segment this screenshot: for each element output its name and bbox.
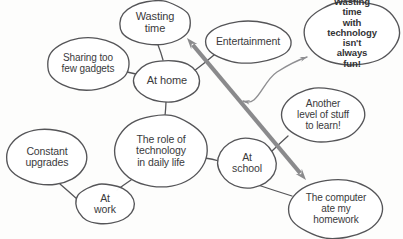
node-ellipse-computer-ate-my-homework[interactable]: [289, 180, 383, 239]
connector-atwork-constantupgrades: [60, 184, 77, 199]
node-ellipse-at-school[interactable]: [218, 138, 277, 188]
connector-atschool-homework: [258, 185, 292, 196]
node-ellipse-wasting-time[interactable]: [120, 1, 190, 45]
node-ellipse-wasting-time-with-technology[interactable]: [304, 1, 399, 65]
connector-athome-role: [165, 102, 166, 116]
concept-map-svg: [0, 0, 403, 239]
node-ellipse-entertainment[interactable]: [206, 21, 291, 63]
ellipses-layer: [7, 1, 400, 239]
node-ellipse-at-home[interactable]: [133, 61, 199, 102]
concept-map-canvas: Wasting timeEntertainmentWasting time wi…: [0, 0, 403, 239]
node-ellipse-constant-upgrades[interactable]: [7, 129, 87, 184]
connector-role-atschool: [205, 158, 219, 161]
node-ellipse-role-of-technology[interactable]: [115, 115, 208, 187]
node-ellipse-sharing-too-few-gadgets[interactable]: [48, 38, 129, 91]
connector-athome-wastingtime: [158, 45, 163, 60]
node-ellipse-another-level-of-stuff[interactable]: [282, 88, 365, 142]
node-ellipse-at-work[interactable]: [76, 184, 135, 224]
